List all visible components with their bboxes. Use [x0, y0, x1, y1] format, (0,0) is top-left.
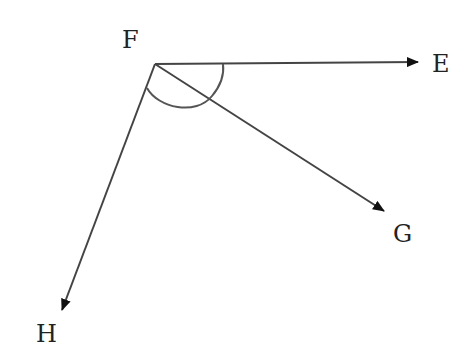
label-g: G: [393, 220, 412, 248]
diagram-canvas: F E G H: [0, 0, 471, 351]
label-h: H: [36, 320, 57, 348]
ray-fg: [155, 64, 384, 211]
label-e: E: [432, 50, 450, 78]
ray-fe: [155, 62, 418, 64]
label-f: F: [122, 26, 139, 54]
angle-diagram: F E G H: [0, 0, 471, 351]
ray-fh: [62, 64, 155, 310]
